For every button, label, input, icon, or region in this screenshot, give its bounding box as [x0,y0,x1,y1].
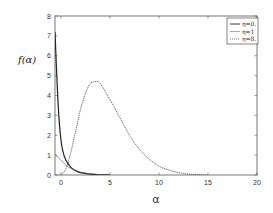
y-tick-label: 1 [47,152,51,159]
legend: η=0. η=1 η=8. [227,18,258,44]
chart: 012345678 05101520 f(α) α η=0. η=1 η=8. [0,0,273,213]
y-tick-label: 4 [47,92,51,99]
x-tick-label: 0 [59,179,63,186]
y-axis-label: f(α) [17,54,36,65]
y-tick-label: 8 [47,13,51,20]
y-tick-label: 3 [47,112,51,119]
y-tick-label: 5 [47,72,51,79]
y-tick-label: 2 [47,132,51,139]
x-axis-label: α [152,193,159,206]
x-tick-label: 15 [204,179,212,186]
x-tick-label: 20 [253,179,261,186]
y-tick-label: 0 [47,172,51,179]
x-tick-label: 10 [155,179,163,186]
x-tick-label: 5 [108,179,112,186]
y-tick-label: 6 [47,52,51,59]
y-tick-label: 7 [47,32,51,39]
plot-frame [55,16,257,175]
legend-label-3: η=8. [242,35,256,43]
